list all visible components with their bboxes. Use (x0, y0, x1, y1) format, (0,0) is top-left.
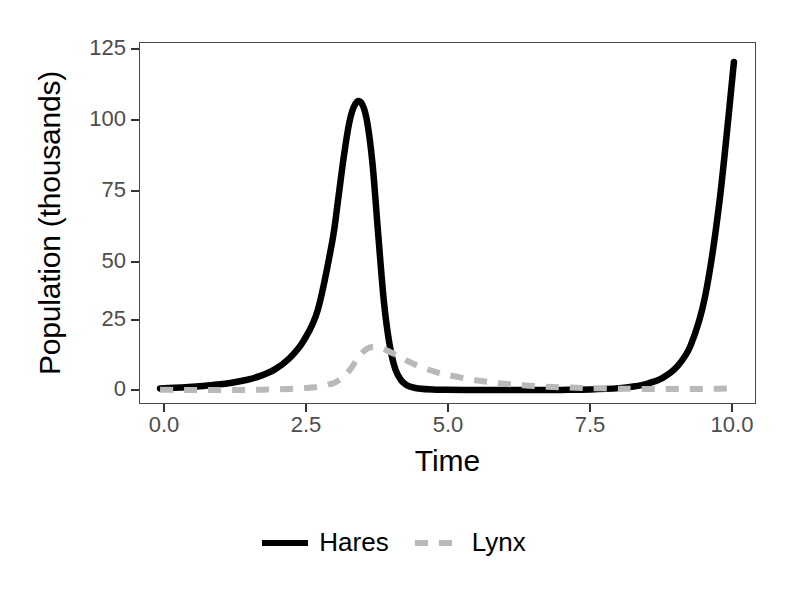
dashed-line-key-icon (415, 532, 461, 554)
legend-label-lynx: Lynx (472, 527, 526, 558)
y-tick-mark-50 (131, 261, 139, 263)
y-tick-mark-75 (131, 190, 139, 192)
x-tick-label-2-5: 2.5 (266, 412, 346, 438)
x-tick-label-7-5: 7.5 (550, 412, 630, 438)
legend-item-lynx[interactable]: Lynx (415, 527, 526, 558)
x-tick-mark-0 (163, 404, 165, 412)
y-axis-title: Population (thousands) (22, 8, 78, 438)
y-tick-label-25: 25 (62, 306, 126, 332)
x-tick-label-0: 0.0 (124, 412, 204, 438)
y-tick-mark-25 (131, 319, 139, 321)
plot-lines-svg (140, 43, 754, 402)
x-tick-mark-10-0 (731, 404, 733, 412)
y-tick-label-125: 125 (62, 35, 126, 61)
plot-panel (139, 42, 756, 404)
y-tick-label-50: 50 (62, 248, 126, 274)
x-tick-label-10-0: 10.0 (692, 412, 772, 438)
y-tick-label-75: 75 (62, 177, 126, 203)
chart-legend: Hares Lynx (0, 527, 788, 558)
y-tick-label-0: 0 (62, 376, 126, 402)
solid-line-key-icon (262, 532, 308, 554)
x-tick-mark-5-0 (447, 404, 449, 412)
x-axis-title: Time (139, 444, 756, 478)
y-tick-mark-100 (131, 119, 139, 121)
legend-item-hares[interactable]: Hares (262, 527, 388, 558)
legend-label-hares: Hares (319, 527, 388, 558)
y-tick-mark-125 (131, 48, 139, 50)
chart-figure: Population (thousands) 125 100 75 50 25 … (0, 0, 788, 593)
y-tick-mark-0 (131, 389, 139, 391)
x-tick-mark-2-5 (305, 404, 307, 412)
line-series-hares (160, 62, 734, 390)
y-tick-label-100: 100 (62, 106, 126, 132)
x-tick-label-5-0: 5.0 (408, 412, 488, 438)
x-tick-mark-7-5 (589, 404, 591, 412)
